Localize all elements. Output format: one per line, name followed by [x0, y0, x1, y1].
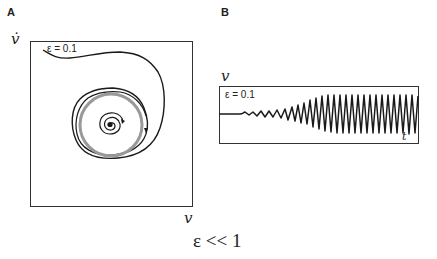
figure-graphics	[0, 0, 437, 259]
fixed-point	[107, 122, 112, 127]
time-series	[219, 95, 418, 134]
outer-trajectory	[43, 50, 164, 158]
